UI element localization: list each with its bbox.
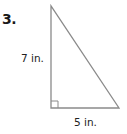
triangle-outline (51, 6, 119, 108)
right-triangle-figure (0, 0, 127, 134)
right-angle-marker-icon (51, 101, 58, 108)
height-label: 7 in. (21, 52, 44, 64)
base-label: 5 in. (74, 116, 97, 128)
